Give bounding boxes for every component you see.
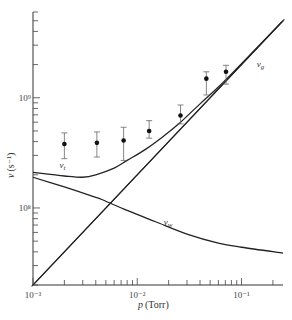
nu-w-label: νw [164,217,173,229]
chart: 10⁻³10⁻²10⁻¹10⁸10⁹ νt νw νg p(Torr) ν(s⁻… [0,0,292,320]
y-tick-label: 10⁹ [19,93,31,103]
data-point [203,72,209,95]
marker [62,142,67,147]
marker [178,113,183,118]
curves [32,19,285,286]
nu-t-label: νt [60,160,67,172]
data-point [94,132,100,157]
data-points [61,65,229,160]
marker [224,70,229,75]
marker [95,141,100,146]
data-point [121,127,127,160]
curve-w [33,177,283,253]
marker [204,76,209,81]
axes [33,12,283,285]
data-point [61,133,67,159]
marker [147,129,152,134]
data-point [146,121,152,139]
y-axis-title: ν(s⁻¹) [5,153,17,178]
x-tick-label: 10⁻¹ [233,290,250,300]
tick-labels: 10⁻³10⁻²10⁻¹10⁸10⁹ [19,93,250,300]
curve-t [33,21,283,178]
y-tick-label: 10⁸ [19,203,31,213]
x-axis-title: p(Torr) [137,299,169,311]
x-tick-label: 10⁻³ [25,290,42,300]
nu-g-label: νg [257,59,265,71]
ticks [33,12,273,285]
marker [121,138,126,143]
